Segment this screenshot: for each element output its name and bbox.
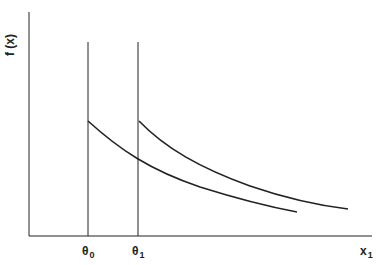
theta1-label: θ1 [132,245,145,257]
y-axis-label: f (x) [4,34,16,56]
theta0-label: θ0 [82,245,95,257]
x-axis-label-main: x [360,244,367,258]
theta1-subscript: 1 [140,250,145,260]
theta0-symbol: θ [82,244,89,258]
diagram-canvas [0,0,382,265]
x-axis-label-subscript: 1 [368,250,373,260]
curve-theta0 [88,121,297,212]
theta0-subscript: 0 [90,250,95,260]
theta1-symbol: θ [132,244,139,258]
curve-theta1 [139,121,348,209]
x-axis-label: x1 [360,245,373,257]
